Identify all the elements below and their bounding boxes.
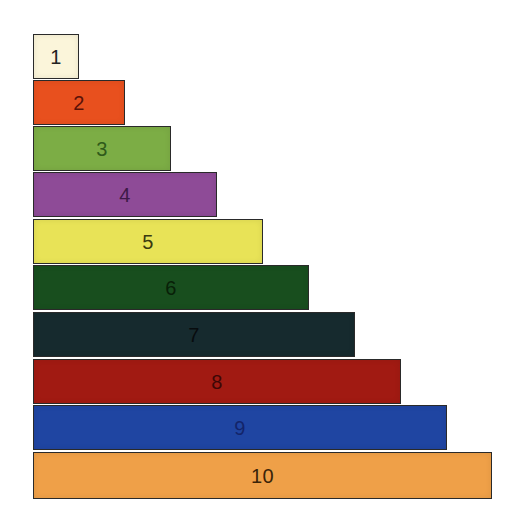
rod-5: 5 bbox=[33, 219, 263, 264]
rod-10: 10 bbox=[33, 452, 492, 499]
rod-label: 7 bbox=[188, 325, 200, 345]
rod-label: 5 bbox=[142, 232, 154, 252]
rod-3: 3 bbox=[33, 126, 171, 171]
rod-label: 9 bbox=[234, 418, 246, 438]
rod-9: 9 bbox=[33, 405, 447, 450]
rod-label: 2 bbox=[73, 93, 85, 113]
number-rod-staircase: 1 2 3 4 5 6 7 8 9 10 bbox=[0, 0, 520, 523]
rod-2: 2 bbox=[33, 80, 125, 125]
rod-1: 1 bbox=[33, 34, 79, 79]
rod-6: 6 bbox=[33, 265, 309, 310]
rod-label: 4 bbox=[119, 185, 131, 205]
rod-8: 8 bbox=[33, 359, 401, 404]
rod-label: 3 bbox=[96, 139, 108, 159]
rod-label: 6 bbox=[165, 278, 177, 298]
rod-7: 7 bbox=[33, 312, 355, 357]
rod-label: 10 bbox=[251, 466, 274, 486]
rod-4: 4 bbox=[33, 172, 217, 217]
rod-label: 8 bbox=[211, 372, 223, 392]
rod-label: 1 bbox=[50, 47, 62, 67]
